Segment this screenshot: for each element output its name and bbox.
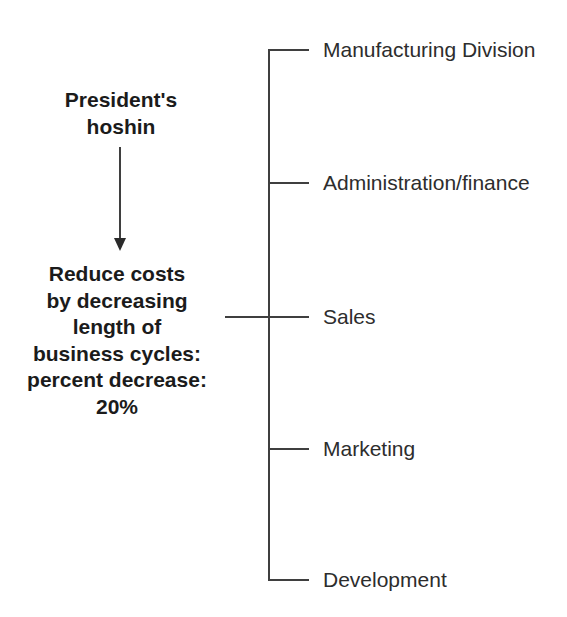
branch-label: Marketing: [323, 437, 415, 461]
branch-marketing: Marketing: [268, 437, 415, 461]
branch-development: Development: [268, 568, 447, 592]
president-hoshin-label: President's hoshin: [30, 86, 212, 140]
branch-sales: Sales: [268, 305, 376, 329]
branch-label: Manufacturing Division: [323, 38, 535, 62]
branch-tick-line: [268, 49, 309, 51]
branch-tick-line: [268, 182, 309, 184]
branch-label: Administration/finance: [323, 171, 530, 195]
branch-label: Development: [323, 568, 447, 592]
branch-tick-line: [268, 316, 309, 318]
branch-tick-line: [268, 448, 309, 450]
down-arrow-icon: [114, 238, 126, 251]
hoshin-statement-text: Reduce costs by decreasing length of bus…: [26, 261, 208, 420]
down-arrow-shaft: [119, 147, 121, 238]
branch-label: Sales: [323, 305, 376, 329]
hoshin-deployment-diagram: President's hoshin Reduce costs by decre…: [0, 0, 567, 617]
branch-manufacturing-division: Manufacturing Division: [268, 38, 535, 62]
branch-administration-finance: Administration/finance: [268, 171, 530, 195]
branch-tick-line: [268, 579, 309, 581]
